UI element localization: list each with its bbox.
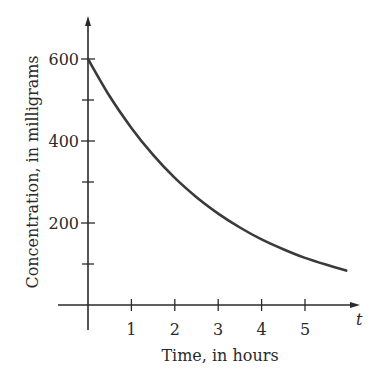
y-tick-label: 200 [48,214,79,233]
x-tick-label: 1 [126,320,136,339]
x-axis [58,302,360,308]
x-tick-label: 4 [257,320,267,339]
x-tick-label: 2 [170,320,180,339]
y-tick-label: 600 [48,50,79,69]
x-tick-label: 5 [300,320,310,339]
y-tick-label: 400 [48,132,79,151]
x-axis-arrow-icon [350,302,360,308]
x-axis-variable-label: t [356,310,363,329]
y-axis-arrow-icon [85,16,91,26]
y-axis-title: Concentration, in milligrams [23,55,42,288]
x-tick-label: 3 [213,320,223,339]
x-axis-title: Time, in hours [161,346,278,365]
concentration-curve [88,59,346,271]
decay-chart: 12345 200400600 t Time, in hours Concent… [0,0,379,383]
